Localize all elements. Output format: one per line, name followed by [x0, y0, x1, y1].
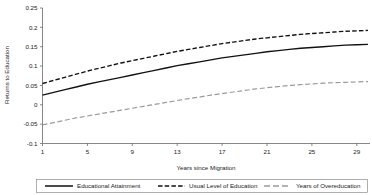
y-tick-label: -0.1	[27, 140, 38, 147]
x-tick-label: 9	[131, 148, 135, 155]
plot-area: 0.250.20.150.10.050-0.05-0.1 15913172125…	[23, 4, 370, 154]
y-tick-label: 0.25	[25, 4, 38, 11]
y-tick-label: 0.05	[25, 82, 38, 89]
series-usual-level-of-education	[43, 30, 369, 83]
x-tick-label: 17	[219, 148, 226, 155]
x-tick-label: 25	[308, 148, 315, 155]
x-tick-label: 1	[41, 148, 45, 155]
x-tick-label: 29	[353, 148, 360, 155]
legend: Educational Attainment Usual Level of Ed…	[37, 180, 368, 193]
y-tick-marks	[40, 8, 43, 144]
y-tick-label: 0.2	[29, 24, 38, 31]
x-axis-title: Years since Migration	[177, 164, 236, 171]
x-tick-label: 5	[86, 148, 90, 155]
y-tick-labels: 0.250.20.150.10.050-0.05-0.1	[23, 4, 38, 147]
x-tick-marks	[43, 144, 357, 147]
y-tick-label: -0.05	[23, 120, 38, 127]
x-tick-label: 21	[264, 148, 271, 155]
y-axis-title: Returns to Education	[3, 46, 10, 104]
legend-label-educational-attainment: Educational Attainment	[77, 182, 141, 189]
y-tick-label: 0.1	[29, 62, 38, 69]
returns-to-education-chart: 0.250.20.150.10.050-0.05-0.1 15913172125…	[0, 0, 372, 195]
y-tick-label: 0	[34, 101, 38, 108]
series-years-of-overeducation	[43, 82, 369, 125]
legend-label-usual-level-of-education: Usual Level of Education	[189, 182, 258, 189]
x-tick-labels: 1591317212529	[41, 148, 361, 155]
x-tick-label: 13	[174, 148, 181, 155]
y-tick-label: 0.15	[25, 43, 38, 50]
legend-label-years-of-overeducation: Years of Overeducation	[296, 182, 361, 189]
